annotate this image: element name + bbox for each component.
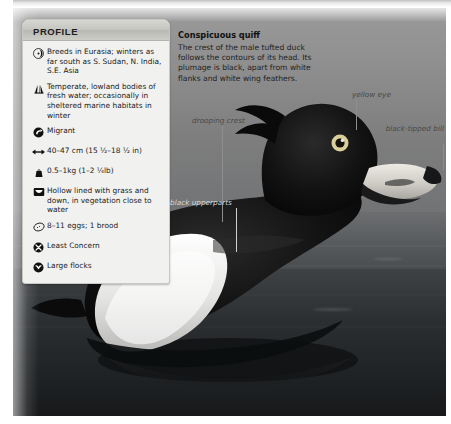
annotation-black-upperparts: black upperparts: [170, 198, 232, 207]
leader-line-black-upperparts: [236, 208, 237, 252]
profile-row-length-text: 40–47 cm (15 ½–18 ½ in): [47, 146, 162, 156]
profile-row-range-text: Breeds in Eurasia; winters as far south …: [47, 47, 162, 76]
profile-row-range: Breeds in Eurasia; winters as far south …: [30, 47, 162, 76]
profile-card-body: Breeds in Eurasia; winters as far south …: [23, 41, 169, 283]
profile-row-nest-text: Hollow lined with grass and down, in veg…: [47, 186, 162, 215]
profile-row-nest: Hollow lined with grass and down, in veg…: [30, 186, 162, 215]
profile-title: PROFILE: [33, 26, 78, 37]
flock-icon: [30, 261, 47, 275]
profile-card: PROFILE Breeds in Eurasia; winters as fa…: [22, 19, 170, 284]
page-top-edge: [0, 0, 451, 7]
migration-arrow-icon: [30, 126, 47, 140]
page-left-margin: [0, 0, 13, 424]
conservation-status-icon: [30, 241, 47, 255]
egg-icon: [30, 221, 47, 235]
leader-line-black-tipped-bill: [443, 144, 444, 170]
nest-icon: [30, 186, 47, 200]
profile-row-habitat-text: Temperate, lowland bodies of fresh water…: [47, 82, 162, 120]
profile-row-eggs-text: 8–11 eggs; 1 brood: [47, 221, 162, 231]
caption-title: Conspicuous quiff: [178, 30, 328, 41]
profile-row-flocks-text: Large flocks: [47, 261, 162, 271]
habitat-grass-icon: [30, 82, 47, 96]
range-globe-icon: [30, 47, 47, 61]
page-root: PROFILE Breeds in Eurasia; winters as fa…: [0, 0, 451, 424]
profile-row-migration-text: Migrant: [47, 126, 162, 136]
annotation-yellow-eye: yellow eye: [352, 90, 391, 99]
profile-row-weight: 0.5–1kg (1–2 ¼lb): [30, 166, 162, 180]
profile-row-weight-text: 0.5–1kg (1–2 ¼lb): [47, 166, 162, 176]
annotation-drooping-crest: drooping crest: [192, 116, 245, 125]
caption-block: Conspicuous quiff The crest of the male …: [178, 30, 328, 84]
leader-line-drooping-crest: [222, 126, 223, 222]
profile-row-migration: Migrant: [30, 126, 162, 140]
profile-row-status: Least Concern: [30, 241, 162, 255]
caption-body: The crest of the male tufted duck follow…: [178, 43, 328, 84]
leader-line-yellow-eye: [356, 100, 357, 130]
profile-row-habitat: Temperate, lowland bodies of fresh water…: [30, 82, 162, 120]
profile-row-status-text: Least Concern: [47, 241, 162, 251]
profile-card-header: PROFILE: [23, 20, 169, 41]
annotation-black-tipped-bill: black-tipped bill: [366, 124, 444, 133]
profile-row-flocks: Large flocks: [30, 261, 162, 275]
weight-icon: [30, 166, 47, 180]
profile-row-length: 40–47 cm (15 ½–18 ½ in): [30, 146, 162, 160]
length-arrows-icon: [30, 146, 47, 160]
profile-row-eggs: 8–11 eggs; 1 brood: [30, 221, 162, 235]
